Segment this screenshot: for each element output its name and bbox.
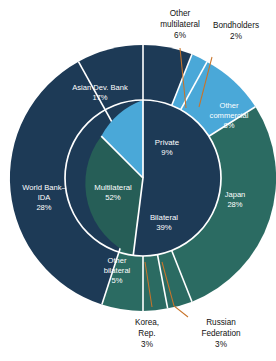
callout-other-multilateral-line2: multilateral [160, 20, 200, 29]
outer-label-other-commercial-line2: commercial [210, 111, 249, 120]
inner-label-private-name: Private [155, 138, 179, 147]
outer-label-other-bilateral-line2: bilateral [104, 266, 131, 275]
outer-label-japan-pct: 28% [227, 200, 242, 209]
callout-korea-rep-pct: 3% [141, 340, 153, 349]
callout-korea-rep-line2: Rep. [138, 329, 155, 338]
outer-label-japan-name: Japan [225, 190, 246, 199]
callout-other-multilateral-pct: 6% [174, 31, 186, 40]
inner-label-bilateral-name: Bilateral [150, 213, 178, 222]
inner-label-multilateral-pct: 52% [105, 193, 121, 202]
inner-label-bilateral-pct: 39% [156, 223, 172, 232]
callout-other-multilateral-line1: Other [170, 9, 191, 18]
callout-bondholders-pct: 2% [230, 32, 242, 41]
inner-label-private-pct: 9% [161, 148, 172, 157]
callout-russian-federation-line2: Federation [201, 329, 241, 338]
callout-korea-rep-line1: Korea, [135, 318, 159, 327]
outer-label-world-bank-ida-line1: World Bank– [22, 183, 66, 192]
inner-label-multilateral-name: Multilateral [94, 183, 132, 192]
callout-russian-federation-pct: 3% [215, 340, 227, 349]
nested-ring-pie-chart: Multilateral 52% Bilateral 39% Private 9… [0, 0, 276, 361]
callout-russian-federation-line1: Russian [206, 318, 236, 327]
callout-bondholders-line1: Bondholders [213, 21, 259, 30]
outer-label-other-bilateral-pct: 5% [112, 276, 123, 285]
outer-label-asian-dev-bank-pct: 17% [92, 93, 107, 102]
outer-label-asian-dev-bank-name: Asian Dev. Bank [72, 83, 128, 92]
outer-label-other-commercial-line1: Other [220, 101, 239, 110]
outer-label-world-bank-ida-line2: IDA [38, 193, 52, 202]
outer-label-other-commercial-pct: 8% [224, 121, 235, 130]
outer-label-other-bilateral-line1: Other [108, 256, 127, 265]
outer-label-world-bank-ida-pct: 28% [36, 203, 51, 212]
pie-chart-figure: Multilateral 52% Bilateral 39% Private 9… [0, 0, 276, 361]
